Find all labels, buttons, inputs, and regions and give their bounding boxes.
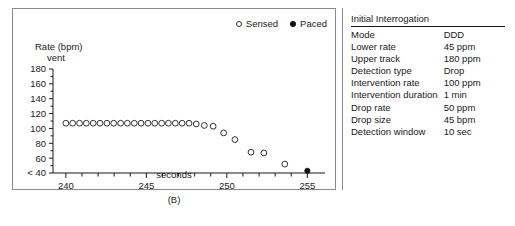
table-row: Detection typeDrop (351, 65, 481, 77)
parameters-table: ModeDDDLower rate45 ppmUpper track180 pp… (351, 29, 481, 138)
data-point-sensed (221, 130, 227, 136)
param-value: 10 sec (444, 126, 481, 138)
param-key: Detection window (351, 126, 444, 138)
param-value: DDD (444, 29, 481, 41)
param-value: 45 bpm (444, 114, 481, 126)
param-key: Lower rate (351, 41, 444, 53)
figure-caption: (B) (12, 194, 336, 205)
param-key: Drop size (351, 114, 444, 126)
data-point-sensed (179, 120, 185, 126)
data-point-sensed (111, 120, 117, 126)
data-point-sensed (83, 120, 89, 126)
param-key: Upper track (351, 53, 444, 65)
param-value: 180 ppm (444, 53, 481, 65)
data-point-sensed (166, 120, 172, 126)
data-point-sensed (97, 120, 103, 126)
data-point-sensed (159, 120, 165, 126)
data-point-sensed (138, 120, 144, 126)
data-point-sensed (118, 120, 124, 126)
y-tick-label: 80 (35, 138, 46, 149)
data-point-sensed (210, 123, 216, 129)
x-tick-label: 250 (219, 180, 235, 191)
data-point-sensed (282, 161, 288, 167)
data-point-sensed (90, 120, 96, 126)
y-tick-label: 140 (30, 93, 46, 104)
table-row: Lower rate45 ppm (351, 41, 481, 53)
table-row: Intervention duration1 min (351, 89, 481, 101)
parameters-panel: Initial Interrogation ModeDDDLower rate4… (342, 8, 507, 190)
y-tick-label: 180 (30, 63, 46, 74)
data-point-sensed (201, 123, 207, 129)
param-value: Drop (444, 65, 481, 77)
param-key: Drop rate (351, 102, 444, 114)
x-tick-label: 240 (58, 180, 74, 191)
plot-area: < 406080100120140160180240245250255 (13, 9, 335, 189)
chart-panel: Sensed Paced Rate (bpm) vent < 406080100… (12, 8, 336, 190)
y-tick-label: 100 (30, 123, 46, 134)
param-value: 100 ppm (444, 77, 481, 89)
param-value: 45 ppm (444, 41, 481, 53)
data-point-sensed (131, 120, 137, 126)
data-point-sensed (77, 120, 83, 126)
table-row: Drop size45 bpm (351, 114, 481, 126)
figure-root: Sensed Paced Rate (bpm) vent < 406080100… (0, 0, 515, 226)
param-key: Mode (351, 29, 444, 41)
parameters-title: Initial Interrogation (349, 12, 507, 26)
y-tick-label: 60 (35, 153, 46, 164)
table-row: Drop rate50 ppm (351, 102, 481, 114)
data-point-sensed (124, 120, 130, 126)
data-point-sensed (193, 121, 199, 127)
x-tick-label: 245 (138, 180, 154, 191)
data-point-sensed (152, 120, 158, 126)
param-key: Intervention duration (351, 89, 444, 101)
y-tick-label: 160 (30, 78, 46, 89)
table-row: Intervention rate100 ppm (351, 77, 481, 89)
param-value: 50 ppm (444, 102, 481, 114)
x-axis-label: seconds (13, 169, 335, 180)
param-value: 1 min (444, 89, 481, 101)
table-row: ModeDDD (351, 29, 481, 41)
data-point-sensed (104, 120, 110, 126)
data-point-sensed (172, 120, 178, 126)
param-key: Detection type (351, 65, 444, 77)
data-point-sensed (232, 137, 238, 143)
data-point-sensed (63, 120, 69, 126)
param-key: Intervention rate (351, 77, 444, 89)
scatter-plot: < 406080100120140160180240245250255 (13, 9, 337, 191)
data-point-sensed (186, 120, 192, 126)
data-point-sensed (145, 120, 151, 126)
data-point-sensed (248, 149, 254, 155)
table-row: Upper track180 ppm (351, 53, 481, 65)
y-tick-label: 120 (30, 108, 46, 119)
table-row: Detection window10 sec (351, 126, 481, 138)
data-point-sensed (261, 150, 267, 156)
title-divider (351, 26, 505, 27)
x-tick-label: 255 (299, 180, 315, 191)
data-point-sensed (70, 120, 76, 126)
